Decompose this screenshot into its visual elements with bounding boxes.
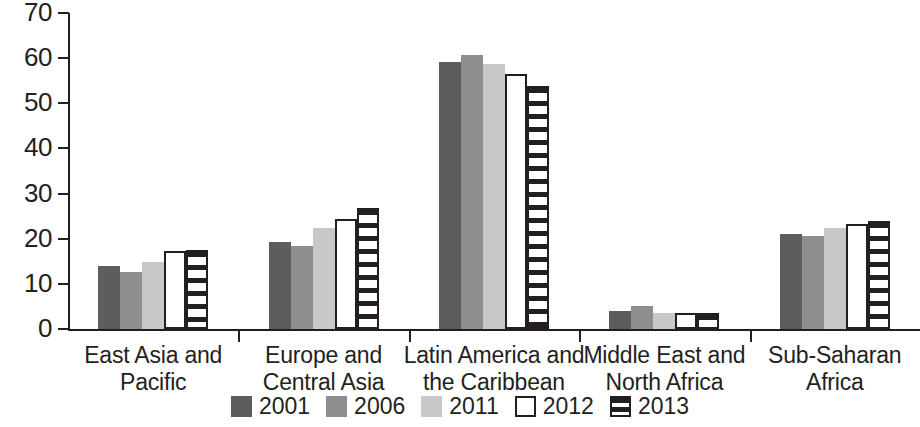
bar-2012-3 (505, 74, 527, 329)
x-axis-line (68, 329, 920, 331)
x-axis-category-label: Sub-SaharanAfrica (740, 342, 920, 396)
y-axis-tick-label: 0 (0, 315, 52, 341)
bar-2013-4 (697, 313, 719, 329)
legend-item-2006[interactable]: 2006 (326, 395, 405, 418)
bar-chart: 010203040506070 East Asia andPacificEuro… (0, 0, 920, 427)
bar-group (98, 13, 208, 329)
legend-swatch-2006-icon (326, 396, 347, 417)
legend-item-2001[interactable]: 2001 (231, 395, 310, 418)
legend-item-2011[interactable]: 2011 (421, 395, 498, 418)
category-label-line: Europe and (228, 342, 418, 369)
y-axis-tick-label: 10 (0, 270, 52, 296)
x-axis-category-label: Europe andCentral Asia (228, 342, 418, 396)
y-axis-tick-label: 40 (0, 134, 52, 160)
x-axis-separator-tick (238, 331, 240, 342)
legend-swatch-2013-icon (610, 396, 631, 417)
x-axis-category-label: Middle East andNorth Africa (569, 342, 759, 396)
legend-swatch-2011-icon (421, 396, 442, 417)
category-label-line: East Asia and (58, 342, 248, 369)
legend-item-2012[interactable]: 2012 (515, 395, 594, 418)
bar-group (609, 13, 719, 329)
legend-label: 2001 (259, 395, 310, 418)
bar-2006-2 (291, 246, 313, 330)
x-axis-category-label: Latin America andthe Caribbean (399, 342, 589, 396)
y-axis-tick-label: 50 (0, 89, 52, 115)
category-label-line: North Africa (569, 369, 759, 396)
y-axis-tick-label: 70 (0, 0, 52, 25)
bar-2006-3 (461, 55, 483, 329)
bar-2001-1 (98, 266, 120, 329)
category-label-line: Africa (740, 369, 920, 396)
bar-group (780, 13, 890, 329)
category-label-line: Pacific (58, 369, 248, 396)
bar-2012-1 (164, 251, 186, 329)
legend-label: 2011 (449, 395, 498, 418)
legend-swatch-2012-icon (515, 396, 536, 417)
bar-2012-4 (675, 313, 697, 329)
y-axis-tick-label: 60 (0, 44, 52, 70)
bar-2012-2 (335, 219, 357, 329)
category-label-line: Sub-Saharan (740, 342, 920, 369)
bar-2006-4 (631, 306, 653, 329)
y-axis-tick-label: 30 (0, 180, 52, 206)
legend-item-2013[interactable]: 2013 (610, 395, 689, 418)
legend-swatch-2001-icon (231, 396, 252, 417)
bar-2011-5 (824, 228, 846, 329)
category-label-line: Middle East and (569, 342, 759, 369)
x-axis-category-label: East Asia andPacific (58, 342, 248, 396)
chart-legend: 20012006201120122013 (0, 395, 920, 418)
bar-group (439, 13, 549, 329)
x-axis-separator-tick (750, 331, 752, 342)
bar-2001-4 (609, 311, 631, 330)
bar-2012-5 (846, 224, 868, 329)
bar-2011-4 (653, 313, 675, 329)
category-label-line: Central Asia (228, 369, 418, 396)
bar-2013-3 (527, 86, 549, 329)
bar-2001-3 (439, 62, 461, 329)
legend-label: 2006 (354, 395, 405, 418)
legend-label: 2012 (543, 395, 594, 418)
y-axis-tick-label: 20 (0, 225, 52, 251)
bar-2001-2 (269, 242, 291, 329)
bar-2013-1 (186, 250, 208, 329)
x-axis-separator-tick (409, 331, 411, 342)
bar-2006-1 (120, 272, 142, 329)
bar-2011-1 (142, 262, 164, 329)
bar-2013-2 (357, 208, 379, 329)
bar-2001-5 (780, 234, 802, 329)
legend-label: 2013 (638, 395, 689, 418)
category-label-line: Latin America and (399, 342, 589, 369)
bar-2011-3 (483, 64, 505, 329)
bar-group (269, 13, 379, 329)
bar-2011-2 (313, 228, 335, 329)
x-axis-separator-tick (579, 331, 581, 342)
bar-2013-5 (868, 221, 890, 329)
category-label-line: the Caribbean (399, 369, 589, 396)
plot-area (68, 13, 920, 329)
bar-2006-5 (802, 236, 824, 329)
